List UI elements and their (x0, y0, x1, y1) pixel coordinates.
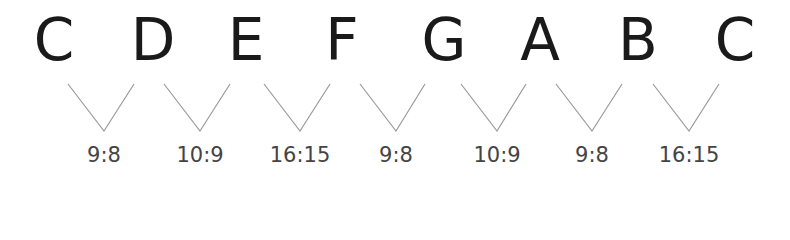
interval-connector-3 (264, 84, 330, 131)
interval-connector-5 (461, 84, 526, 131)
interval-ratio-6: 9:8 (552, 143, 632, 167)
interval-ratio-7: 16:15 (649, 143, 729, 167)
interval-ratio-2: 10:9 (160, 143, 240, 167)
interval-connector-2 (164, 84, 230, 131)
interval-ratio-5: 10:9 (457, 143, 537, 167)
interval-connector-7 (653, 84, 719, 131)
interval-ratio-4: 9:8 (356, 143, 436, 167)
interval-ratio-3: 16:15 (260, 143, 340, 167)
interval-connector-6 (556, 84, 622, 131)
interval-ratio-1: 9:8 (64, 143, 144, 167)
interval-connector-4 (360, 84, 425, 131)
interval-connector-1 (68, 84, 134, 131)
